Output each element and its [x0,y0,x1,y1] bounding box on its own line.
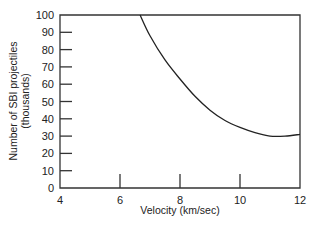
y-tick-label: 10 [42,165,54,177]
y-tick-label: 20 [42,147,54,159]
y-tick-label: 0 [48,182,54,194]
x-tick-label: 4 [57,194,63,206]
data-line [140,15,300,136]
y-tick-label: 50 [42,96,54,108]
x-tick-label: 10 [234,194,246,206]
y-tick-label: 30 [42,130,54,142]
x-tick-label: 12 [294,194,306,206]
y-tick-label: 90 [42,26,54,38]
y-tick-label: 40 [42,113,54,125]
x-ticks [120,174,240,188]
y-axis-label: Number of SBI projectiles [7,41,19,160]
y-tick-labels: 0102030405060708090100 [36,9,54,194]
y-tick-label: 60 [42,78,54,90]
y-axis-label-units: (thousands) [19,73,31,128]
x-tick-label: 6 [117,194,123,206]
y-tick-label: 80 [42,44,54,56]
chart: 0102030405060708090100 4681012 Velocity … [0,0,314,230]
plot-frame [60,15,300,188]
y-ticks [60,32,72,170]
x-axis-label: Velocity (km/sec) [140,204,219,216]
y-tick-label: 100 [36,9,54,21]
y-tick-label: 70 [42,61,54,73]
